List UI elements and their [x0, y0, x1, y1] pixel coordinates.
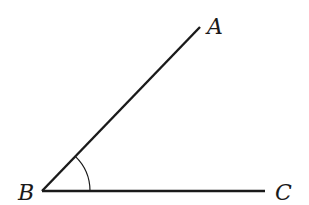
- label-B: B: [17, 180, 34, 205]
- ray-BA: [42, 27, 200, 191]
- angle-arc: [75, 156, 90, 191]
- label-A: A: [205, 14, 223, 39]
- label-C: C: [275, 180, 292, 205]
- angle-diagram: A B C: [0, 0, 309, 205]
